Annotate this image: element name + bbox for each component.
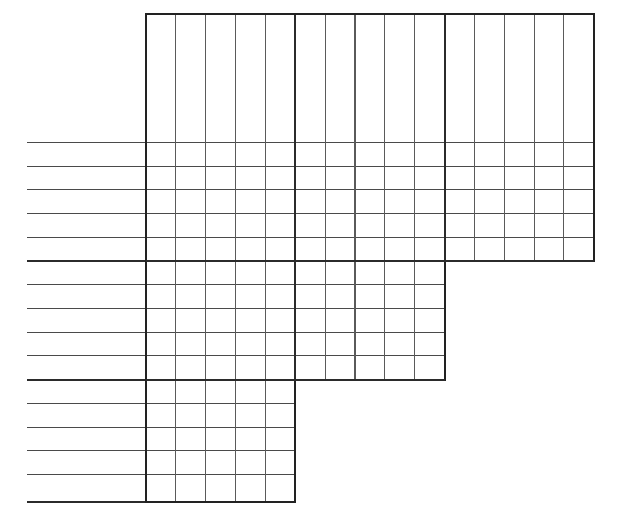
grid-outline <box>146 14 594 502</box>
worksheet-canvas <box>0 0 625 527</box>
stepped-grid-chart <box>0 0 625 527</box>
